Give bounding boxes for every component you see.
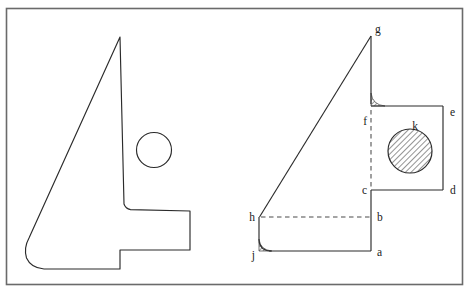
pictorial-part-outline [25, 37, 190, 269]
vertex-label-e: e [450, 106, 455, 118]
ramp-edge-g-h [260, 36, 372, 217]
vertex-label-d: d [450, 184, 456, 196]
fillet-hatch-j [259, 239, 272, 251]
vertex-label-h: h [249, 211, 255, 223]
vertex-label-c: c [362, 184, 367, 196]
hole-k-section [388, 129, 432, 173]
vertex-label-k: k [412, 120, 418, 132]
engineering-drawing-figure: g f e k c d h b j a [0, 0, 470, 299]
pictorial-view-group [25, 37, 190, 269]
vertex-label-j: j [251, 249, 255, 262]
drawing-canvas: g f e k c d h b j a [0, 0, 470, 299]
fillet-hatch-f [371, 93, 385, 106]
vertex-label-g: g [375, 23, 381, 36]
vertex-label-a: a [377, 246, 382, 258]
orthographic-view-group: g f e k c d h b j a [249, 23, 456, 262]
pictorial-hole-circle [137, 133, 172, 168]
vertex-label-f: f [363, 115, 367, 127]
vertex-label-b: b [377, 211, 383, 223]
